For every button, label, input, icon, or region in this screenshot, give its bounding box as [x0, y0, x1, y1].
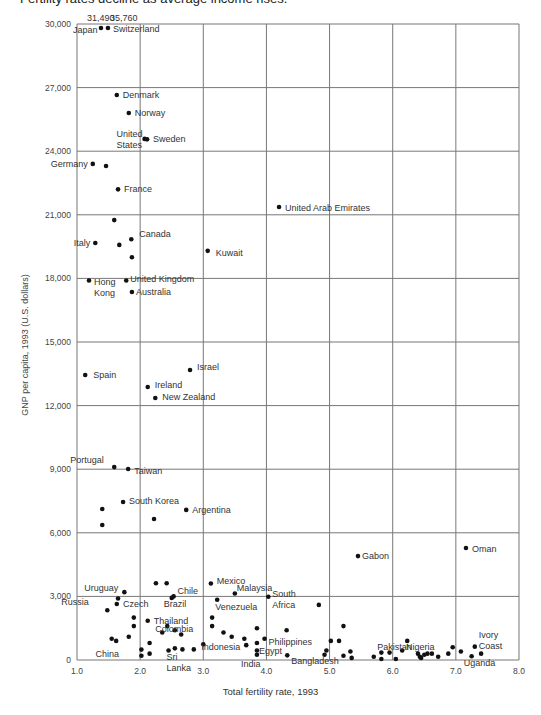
point-label: New Zealand	[162, 392, 215, 402]
data-point	[244, 643, 249, 648]
x-tick-label: 4.0	[261, 666, 273, 676]
x-tick-label: 7.0	[450, 666, 462, 676]
y-tick-label: 6,000	[50, 528, 72, 538]
data-point	[117, 243, 122, 248]
data-point	[153, 396, 158, 401]
data-point	[188, 368, 193, 373]
x-tick-label: 5.0	[324, 666, 336, 676]
data-point	[114, 602, 119, 607]
point-label: Uganda	[464, 658, 496, 668]
point-label: United Kingdom	[130, 274, 194, 284]
point-label: Bangladesh	[291, 656, 339, 666]
data-point	[173, 646, 178, 651]
data-point	[90, 162, 95, 167]
data-point	[114, 639, 119, 644]
y-tick-label: 12,000	[45, 401, 71, 411]
data-point	[184, 508, 189, 513]
data-point	[152, 517, 157, 522]
point-label: France	[124, 184, 152, 194]
data-point	[221, 630, 226, 635]
x-tick-label: 3.0	[197, 666, 209, 676]
y-tick-label: 30,000	[45, 19, 71, 29]
data-point	[100, 523, 105, 528]
data-point	[284, 628, 289, 633]
point-label: Sweden	[153, 134, 186, 144]
point-label: Ireland	[155, 380, 183, 390]
point-label: United Arab Emirates	[285, 203, 371, 213]
data-point	[394, 657, 399, 662]
x-axis-label: Total fertility rate, 1993	[0, 686, 541, 697]
point-label: Spain	[93, 370, 116, 380]
y-tick-label: 0	[66, 655, 71, 665]
annotations: 31,49035,760	[87, 13, 138, 23]
point-labels: JapanSwitzerlandDenmarkNorwayUnitedState…	[51, 24, 503, 673]
point-label: Switzerland	[113, 24, 160, 34]
point-label: Italy	[74, 238, 91, 248]
x-tick-label: 6.0	[387, 666, 399, 676]
point-label: United	[117, 129, 143, 139]
data-point	[87, 278, 92, 283]
data-point	[126, 467, 131, 472]
data-point	[329, 639, 334, 644]
data-point	[112, 218, 117, 223]
point-label: Russia	[61, 597, 89, 607]
data-point	[145, 137, 150, 142]
data-point	[147, 651, 152, 656]
point-label: Ivory	[479, 630, 499, 640]
point-label: Africa	[272, 600, 295, 610]
data-point	[210, 624, 215, 629]
y-tick-label: 15,000	[45, 337, 71, 347]
data-point	[164, 581, 169, 586]
point-label: Kuwait	[216, 248, 244, 258]
point-label: States	[117, 140, 143, 150]
data-point	[341, 624, 346, 629]
data-point	[356, 554, 361, 559]
data-point	[459, 649, 464, 654]
data-point	[242, 637, 247, 642]
point-label: Coast	[479, 641, 503, 651]
data-point	[371, 655, 376, 660]
point-label: Lanka	[167, 663, 192, 673]
x-tick-label: 8.0	[513, 666, 525, 676]
point-label: Portugal	[70, 455, 104, 465]
data-point	[116, 187, 121, 192]
point-label: Czech	[123, 599, 149, 609]
point-label: South	[272, 589, 296, 599]
data-point	[266, 595, 271, 600]
data-point	[100, 507, 105, 512]
y-tick-label: 9,000	[50, 464, 72, 474]
point-label: Gabon	[362, 551, 389, 561]
point-label: Norway	[135, 108, 166, 118]
point-label: Malaysia	[237, 583, 273, 593]
data-point	[121, 500, 126, 505]
data-point	[436, 655, 441, 660]
data-point	[130, 255, 135, 260]
point-label: Japan	[73, 25, 98, 35]
data-point	[277, 205, 282, 210]
y-tick-label: 21,000	[45, 210, 71, 220]
grid-lines	[77, 24, 519, 660]
data-point	[473, 644, 478, 649]
data-point	[139, 653, 144, 658]
data-point	[255, 641, 260, 646]
point-label: Sri	[167, 652, 178, 662]
point-label: Brazil	[164, 599, 187, 609]
point-label: Australia	[136, 287, 171, 297]
data-point	[124, 278, 129, 283]
y-axis-label: GNP per capita, 1993 (U.S. dollars)	[20, 225, 30, 465]
data-point	[104, 164, 109, 169]
point-label: Hong	[94, 277, 116, 287]
data-point	[209, 581, 214, 586]
data-point	[109, 637, 114, 642]
data-point	[349, 656, 354, 661]
data-point	[93, 241, 98, 246]
data-point	[379, 657, 384, 662]
point-label: Venezuela	[215, 602, 257, 612]
point-label: Indonesia	[201, 642, 240, 652]
y-tick-label: 27,000	[45, 83, 71, 93]
data-point	[341, 653, 346, 658]
data-point	[145, 618, 150, 623]
data-point	[145, 385, 150, 390]
scatter-plot: 03,0006,0009,00012,00015,00018,00021,000…	[0, 0, 541, 715]
data-point	[450, 645, 455, 650]
